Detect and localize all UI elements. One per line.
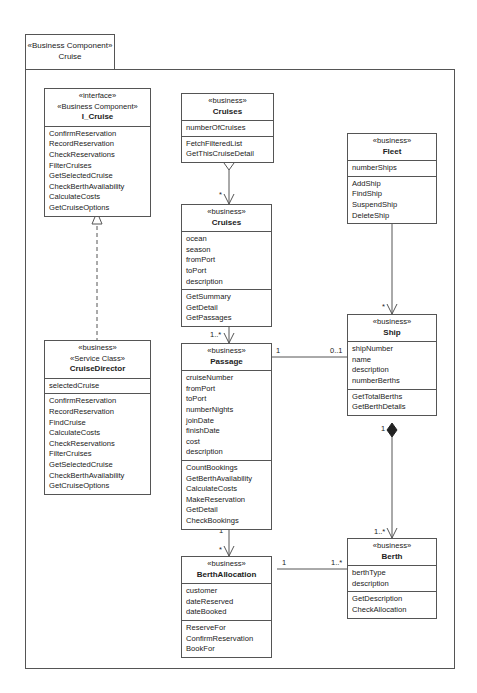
operation: BookFor [186,644,267,655]
operations: GetTotalBerths GetBerthDetails [348,390,436,415]
aggregation-cruises-connector [224,156,234,204]
attribute: numberOfCruises [186,123,269,134]
attributes: cruiseNumber fromPort toPort numberNight… [182,371,271,461]
stereotype: «business» [184,559,269,570]
class-fleet: «business» Fleet numberShips AddShip Fin… [347,133,437,224]
attributes: selectedCruise [45,379,150,395]
operation: RecordReservation [49,139,146,150]
class-name: Cruises [184,218,269,229]
stereotype: «Service Class» [47,354,148,365]
attributes: berthType description [348,566,436,592]
mult-agg-cruises-part: * [219,190,222,199]
attribute: joinDate [186,416,267,427]
stereotype: «business» [184,346,269,357]
class-cruises-collection: «business» Cruises numberOfCruises Fetch… [181,93,274,163]
mult-ship-part: 1..* [374,527,385,536]
operation: GetSummary [186,292,267,303]
attributes: shipNumber name description numberBerths [348,342,436,389]
stereotype: «business» [47,343,148,354]
realization-connector [92,212,102,340]
mult-ba-berth-to: 1..* [331,558,342,567]
attribute: numberBerths [352,376,432,387]
class-passage: «business» Passage cruiseNumber fromPort… [181,343,272,530]
operation: DeleteShip [352,211,432,222]
attribute: finishDate [186,426,267,437]
operation: CheckAllocation [352,605,432,616]
operation: GetTotalBerths [352,392,432,403]
operation: CheckBerthAvailability [49,182,146,193]
mult-comp-cruises-part: 1..* [210,330,221,339]
stereotype: «business» [350,541,434,552]
operation: GetDescription [352,594,432,605]
attribute: toPort [186,266,267,277]
class-name: Passage [184,357,269,368]
operation: GetBerthAvailability [186,474,267,485]
attributes: customer dateReserved dateBooked [182,584,271,621]
mult-passage-ba-to: * [219,545,222,554]
attribute: name [352,355,432,366]
attributes: numberShips [348,161,436,177]
operation: GetCruiseOptions [49,481,146,492]
class-i-cruise: «interface» «Business Component» I_Cruis… [44,88,151,217]
operation: GetCruiseOptions [49,203,146,214]
attribute: berthType [352,568,432,579]
operation: MakeReservation [186,495,267,506]
operation: ReserveFor [186,623,267,634]
operation: CalculateCosts [186,484,267,495]
class-name: Cruises [184,107,271,118]
operation: CalculateCosts [49,428,146,439]
attribute: numberShips [352,163,432,174]
attribute: selectedCruise [49,381,146,392]
operation: CheckBookings [186,516,267,527]
attribute: cost [186,437,267,448]
attributes: numberOfCruises [182,121,273,137]
class-name: BerthAllocation [184,570,269,581]
attribute: customer [186,586,267,597]
stereotype: «business» [350,317,434,328]
operations: GetSummary GetDetail GetPassages [182,290,271,326]
mult-passage-ship-from: 1 [276,346,280,355]
attribute: description [186,447,267,458]
operations: ConfirmReservation RecordReservation Fin… [45,394,150,493]
operation: FilterCruises [49,449,146,460]
operation: CountBookings [186,463,267,474]
attribute: cruiseNumber [186,373,267,384]
association-passage-berthallocation-connector [224,525,234,556]
class-cruise-director: «business» «Service Class» CruiseDirecto… [44,340,151,495]
class-berth-allocation: «business» BerthAllocation customer date… [181,556,272,658]
stereotype: «business» [184,96,271,107]
attribute: fromPort [186,255,267,266]
operation: GetSelectedCruise [49,460,146,471]
class-name: Berth [350,552,434,563]
operation: SuspendShip [352,200,432,211]
operations: GetDescription CheckAllocation [348,592,436,617]
attributes: ocean season fromPort toPort description [182,232,271,290]
operations: ReserveFor ConfirmReservation BookFor [182,621,271,657]
attribute: description [352,365,432,376]
attribute: dateReserved [186,597,267,608]
operation: FindCruise [49,418,146,429]
operation: AddShip [352,179,432,190]
composition-ship-berth-connector [387,423,397,538]
operations: ConfirmReservation RecordReservation Che… [45,127,150,216]
stereotype: «interface» [47,91,148,102]
attribute: dateBooked [186,607,267,618]
operation: ConfirmReservation [49,129,146,140]
attribute: toPort [186,394,267,405]
operations: CountBookings GetBerthAvailability Calcu… [182,461,271,529]
class-name: CruiseDirector [47,364,148,375]
attribute: description [186,277,267,288]
operation: GetDetail [186,505,267,516]
class-cruises: «business» Cruises ocean season fromPort… [181,204,272,327]
mult-fleet-part: * [382,302,385,311]
attribute: numberNights [186,405,267,416]
mult-ba-berth-from: 1 [282,558,286,567]
operation: CheckBerthAvailability [49,471,146,482]
class-ship: «business» Ship shipNumber name descript… [347,314,437,416]
class-berth: «business» Berth berthType description G… [347,538,437,619]
operations: FetchFilteredList GetThisCruiseDetail [182,137,273,162]
operation: ConfirmReservation [186,634,267,645]
operation: CheckReservations [49,150,146,161]
operation: GetBerthDetails [352,402,432,413]
operation: CheckReservations [49,439,146,450]
